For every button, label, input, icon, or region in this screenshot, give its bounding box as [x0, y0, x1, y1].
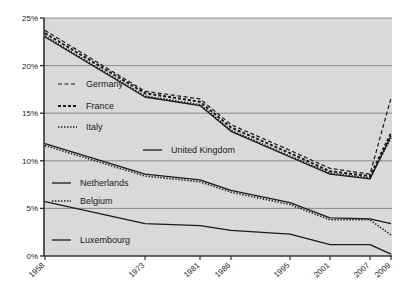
y-tick-label: 25%	[22, 14, 38, 23]
legend-label-united-kingdom: United Kingdom	[171, 145, 235, 155]
y-tick-label: 15%	[22, 109, 38, 118]
x-tick-label: 1986	[213, 260, 233, 279]
x-tick-label: 1973	[127, 260, 147, 279]
x-tick-label: 2009	[373, 260, 393, 279]
chart-container: 0%5%10%15%20%25%195819731981198619952001…	[0, 0, 408, 296]
legend-label-germany: Germany	[86, 79, 124, 89]
y-tick-label: 20%	[22, 62, 38, 71]
legend-label-netherlands: Netherlands	[80, 178, 129, 188]
y-tick-label: 5%	[26, 204, 38, 213]
line-chart: 0%5%10%15%20%25%195819731981198619952001…	[0, 0, 408, 296]
y-tick-label: 10%	[22, 157, 38, 166]
x-tick-label: 1981	[182, 260, 202, 279]
x-tick-label: 2007	[352, 260, 372, 279]
legend-label-belgium: Belgium	[80, 196, 113, 206]
plot-background	[44, 18, 392, 256]
x-tick-label: 1958	[27, 260, 47, 279]
x-tick-label: 1995	[272, 260, 292, 279]
legend-label-luxembourg: Luxembourg	[80, 235, 130, 245]
x-tick-label: 2001	[312, 260, 332, 279]
legend-label-italy: Italy	[86, 122, 103, 132]
legend-label-france: France	[86, 101, 114, 111]
y-tick-label: 0%	[26, 252, 38, 261]
